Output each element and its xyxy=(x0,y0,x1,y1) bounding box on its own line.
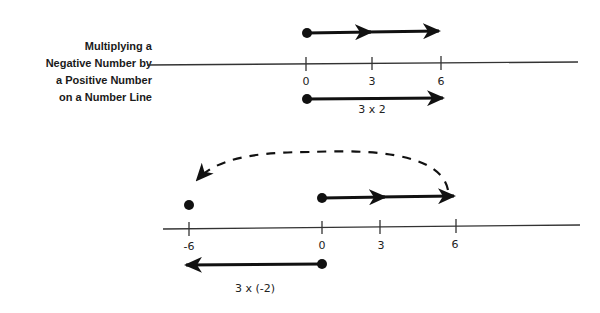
top-number-line-group: 0 3 6 3 x 2 xyxy=(147,28,578,116)
bottom-number-line xyxy=(163,225,580,229)
bottom-number-line-group: -6 0 3 6 3 x (-2) xyxy=(163,151,580,295)
bottom-tick-label-3: 3 xyxy=(378,239,385,252)
bottom-tick-label-6: 6 xyxy=(452,238,459,251)
bottom-jump-arrow-1 xyxy=(322,197,385,198)
bottom-jump-arrow-2 xyxy=(378,196,454,197)
top-jump-arrow-1 xyxy=(307,32,371,33)
reflection-dashed-arc xyxy=(197,151,448,190)
bottom-tick-label-neg6: -6 xyxy=(184,240,195,253)
bottom-operation-label: 3 x (-2) xyxy=(235,282,275,295)
bottom-tick-label-0: 0 xyxy=(319,239,326,252)
top-jump-arrow-2 xyxy=(368,31,439,32)
top-operation-label: 3 x 2 xyxy=(358,103,386,116)
top-result-arrow xyxy=(307,98,443,99)
number-line-diagram: 0 3 6 3 x 2 -6 0 3 6 3 x (-2 xyxy=(0,0,600,313)
top-tick-label-0: 0 xyxy=(303,75,310,88)
bottom-result-arrow xyxy=(186,264,322,265)
top-tick-label-6: 6 xyxy=(438,75,445,88)
top-number-line xyxy=(147,62,578,65)
bottom-negative-result-dot xyxy=(184,200,194,210)
top-tick-label-3: 3 xyxy=(369,75,376,88)
